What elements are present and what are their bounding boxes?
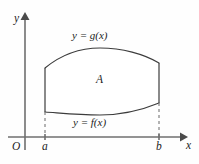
y-axis-arrow-icon	[21, 12, 30, 20]
y-axis-label: y	[14, 13, 19, 25]
origin-label: O	[12, 141, 20, 153]
x-tick-label-a: a	[42, 141, 48, 153]
area-between-curves-figure: y = g(x) y = f(x) A y x O a b	[0, 0, 199, 164]
upper-curve-label: y = g(x)	[72, 30, 108, 41]
x-tick-label-b: b	[156, 141, 162, 153]
region-label: A	[96, 74, 103, 86]
lower-curve-label: y = f(x)	[73, 117, 106, 128]
x-axis-label: x	[186, 140, 191, 152]
